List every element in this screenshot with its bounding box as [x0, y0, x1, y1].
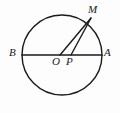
point-label-o: O — [52, 56, 60, 67]
radius-segment-OM — [60, 18, 91, 55]
point-label-m: M — [88, 4, 97, 15]
geometry-canvas — [0, 0, 120, 113]
chord-segment-PM — [71, 18, 91, 55]
point-label-a: A — [104, 47, 111, 58]
geometry-figure: B A M O P — [0, 0, 120, 113]
point-label-p: P — [66, 56, 73, 67]
point-label-b: B — [9, 47, 16, 58]
